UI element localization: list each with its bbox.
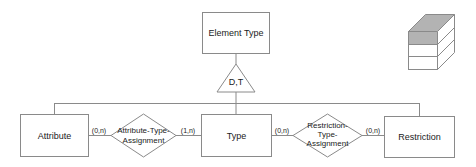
rta-label-line1: Restriction- bbox=[307, 121, 348, 130]
cardinality-ata-type: (1,n) bbox=[181, 127, 195, 135]
generalization-label: D,T bbox=[229, 77, 244, 87]
cardinality-rta-restriction: (0,n) bbox=[366, 127, 380, 135]
entity-attribute-label: Attribute bbox=[38, 131, 72, 141]
rta-label-line3: Assignment bbox=[307, 139, 350, 148]
er-diagram: Element Type D,T Attribute Type Restrict… bbox=[0, 0, 476, 167]
cardinality-attribute-ata: (0,n) bbox=[92, 127, 106, 135]
entity-restriction-label: Restriction bbox=[398, 132, 441, 142]
rta-label-line2: Type- bbox=[317, 130, 337, 139]
database-cube-icon bbox=[409, 15, 455, 70]
cardinality-type-rta: (0,n) bbox=[275, 127, 289, 135]
ata-label-line2: Assignment bbox=[123, 136, 166, 145]
entity-type-label: Type bbox=[227, 131, 247, 141]
ata-label-line1: Attribute-Type- bbox=[117, 126, 170, 135]
entity-element-type-label: Element Type bbox=[209, 28, 264, 38]
